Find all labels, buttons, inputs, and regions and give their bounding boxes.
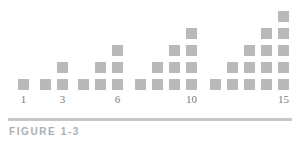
x-axis-tick-label: 3	[55, 92, 71, 106]
chart-unit-square	[261, 28, 272, 39]
chart-unit-square	[244, 62, 255, 73]
chart-unit-square	[210, 79, 221, 90]
chart-unit-square	[57, 79, 68, 90]
chart-unit-square	[227, 79, 238, 90]
chart-unit-square	[186, 45, 197, 56]
chart-unit-square	[112, 79, 123, 90]
chart-unit-square	[57, 62, 68, 73]
chart-unit-square	[261, 45, 272, 56]
figure-caption: FIGURE 1-3	[9, 126, 80, 137]
chart-unit-square	[169, 62, 180, 73]
x-axis-tick-label: 10	[184, 92, 200, 106]
caption-divider	[8, 118, 292, 121]
x-axis-tick-label: 6	[110, 92, 126, 106]
chart-unit-square	[186, 28, 197, 39]
chart-unit-square	[186, 62, 197, 73]
chart-unit-square	[152, 62, 163, 73]
chart-unit-square	[261, 62, 272, 73]
chart-unit-square	[95, 62, 106, 73]
chart-unit-square	[40, 79, 51, 90]
x-axis-tick-label: 15	[276, 92, 292, 106]
chart-unit-square	[278, 11, 289, 22]
chart-unit-square	[278, 28, 289, 39]
chart-unit-square	[18, 79, 29, 90]
chart-unit-square	[278, 45, 289, 56]
chart-unit-square	[244, 79, 255, 90]
chart-unit-square	[135, 79, 146, 90]
chart-unit-square	[112, 45, 123, 56]
figure-container: 1361015 FIGURE 1-3	[0, 0, 300, 149]
chart-unit-square	[244, 45, 255, 56]
chart-unit-square	[278, 62, 289, 73]
chart-unit-square	[169, 79, 180, 90]
dot-plot-chart	[0, 0, 300, 90]
chart-unit-square	[152, 79, 163, 90]
chart-unit-square	[112, 62, 123, 73]
chart-unit-square	[95, 79, 106, 90]
chart-unit-square	[186, 79, 197, 90]
x-axis-labels: 1361015	[0, 92, 300, 108]
chart-unit-square	[278, 79, 289, 90]
x-axis-tick-label: 1	[16, 92, 32, 106]
chart-unit-square	[169, 45, 180, 56]
chart-unit-square	[227, 62, 238, 73]
chart-unit-square	[261, 79, 272, 90]
chart-unit-square	[78, 79, 89, 90]
